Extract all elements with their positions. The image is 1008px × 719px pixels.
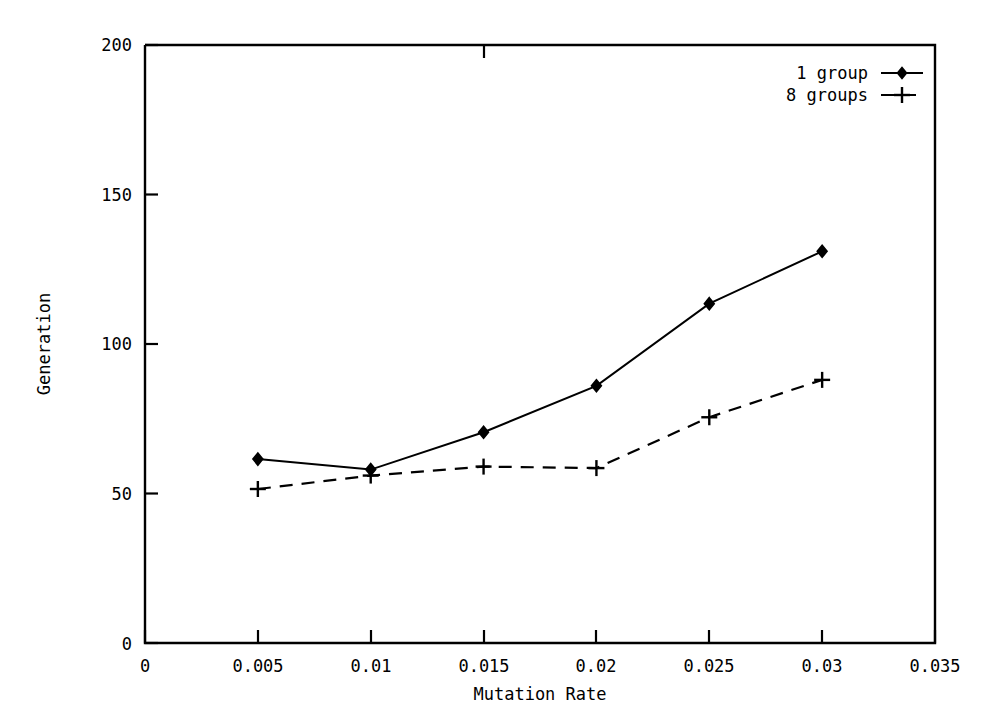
series-2 [250, 372, 830, 497]
legend-label-series-2: 8 groups [786, 85, 868, 105]
y-tick-label: 150 [101, 185, 132, 205]
series-line-2 [258, 380, 822, 489]
x-tick-marks [145, 630, 935, 643]
plus-marker [701, 409, 717, 425]
y-tick-marks [145, 45, 158, 643]
plus-marker [814, 372, 830, 388]
diamond-marker [253, 453, 263, 465]
diamond-marker [704, 298, 714, 310]
diamond-marker [898, 68, 907, 79]
diamond-marker [817, 245, 827, 257]
plus-marker [476, 459, 492, 475]
legend-swatch-series-2 [881, 87, 923, 103]
x-tick-label: 0.01 [351, 656, 392, 676]
x-tick-label: 0.03 [802, 656, 843, 676]
x-tick-label: 0.035 [909, 656, 960, 676]
y-tick-label: 50 [112, 484, 132, 504]
plus-marker [894, 87, 910, 103]
legend-swatch-series-1 [881, 68, 923, 79]
y-axis-title: Generation [34, 293, 54, 395]
x-axis-title: Mutation Rate [473, 684, 606, 704]
diamond-marker [592, 380, 602, 392]
plot-area: 0 50 100 150 200 0 0.005 0.01 0.015 0.02… [0, 0, 1008, 719]
y-tick-label: 100 [101, 334, 132, 354]
legend: 1 group 8 groups [786, 63, 923, 105]
plus-marker [588, 460, 604, 476]
y-tick-labels: 0 50 100 150 200 [101, 35, 132, 654]
series-line-1 [258, 251, 822, 469]
x-tick-label: 0.025 [683, 656, 734, 676]
y-tick-label: 200 [101, 35, 132, 55]
x-tick-labels: 0 0.005 0.01 0.015 0.02 0.025 0.03 0.035 [140, 656, 961, 676]
series-1 [253, 245, 827, 475]
x-tick-label: 0.015 [458, 656, 509, 676]
plot-frame [145, 45, 935, 643]
x-tick-label: 0 [140, 656, 150, 676]
plus-marker [250, 481, 266, 497]
y-tick-label: 0 [122, 634, 132, 654]
data-series-layer [250, 245, 830, 497]
chart-figure: 0 50 100 150 200 0 0.005 0.01 0.015 0.02… [0, 0, 1008, 719]
x-tick-label: 0.02 [576, 656, 617, 676]
legend-label-series-1: 1 group [796, 63, 868, 83]
x-tick-label: 0.005 [232, 656, 283, 676]
diamond-marker [479, 426, 489, 438]
